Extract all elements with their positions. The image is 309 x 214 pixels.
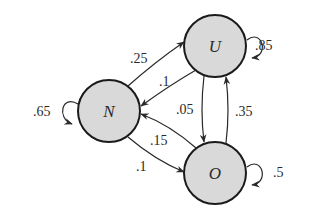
edge-o-to-u	[226, 77, 228, 143]
node-o: O	[184, 142, 246, 204]
edge-u-to-o	[202, 76, 204, 142]
label-o-to-n: .15	[150, 133, 168, 148]
label-n-to-o: .1	[136, 159, 147, 174]
node-u: U	[184, 15, 246, 77]
markov-chain-diagram: N U O .65 .25 .1 .85 .05 .35 .15 .1 .5	[0, 0, 309, 214]
self-loop-o	[247, 164, 262, 185]
node-n-label: N	[102, 102, 116, 121]
label-u-to-o: .05	[176, 102, 194, 117]
label-n-to-u: .25	[130, 51, 148, 66]
label-o-to-u: .35	[235, 104, 253, 119]
label-u-to-n: .1	[159, 74, 170, 89]
node-o-label: O	[209, 164, 221, 183]
node-u-label: U	[209, 37, 223, 56]
self-loop-n	[63, 102, 78, 124]
node-n: N	[78, 80, 140, 142]
label-o-to-o: .5	[273, 165, 284, 180]
label-u-to-u: .85	[255, 38, 273, 53]
label-n-to-n: .65	[33, 104, 51, 119]
